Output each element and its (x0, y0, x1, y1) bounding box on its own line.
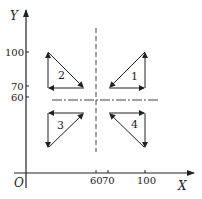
triangle-3: 3 (48, 113, 84, 147)
triangle-3-label: 3 (57, 119, 64, 132)
triangle-2-label: 2 (58, 69, 65, 82)
triangle-3-edge (49, 114, 83, 147)
triangle-1: 1 (109, 52, 145, 88)
x-tick-label-100: 100 (137, 175, 156, 186)
triangle-1-label: 1 (131, 70, 138, 83)
origin-label: O (14, 176, 24, 190)
x-axis-label: X (177, 179, 187, 193)
triangle-4: 4 (109, 113, 145, 147)
y-axis-label: Y (10, 9, 19, 23)
triangle-4-label: 4 (131, 118, 138, 131)
y-tick-label-100: 100 (5, 47, 24, 58)
y-tick-label-60: 60 (11, 92, 24, 103)
x-tick-label-60: 60 (90, 175, 103, 186)
triangle-2: 2 (48, 52, 84, 88)
triangle-2-edge (48, 52, 83, 87)
y-tick-label-70: 70 (11, 81, 24, 92)
x-tick-label-70: 70 (102, 175, 115, 186)
diagram-canvas: Y X O 60 70 100 100 70 60 2 1 3 4 (0, 0, 202, 199)
triangle-4-edge (110, 114, 144, 147)
triangle-1-edge (110, 52, 145, 87)
